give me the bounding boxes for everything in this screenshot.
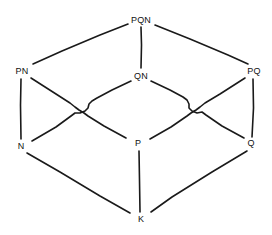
edge-pq-q bbox=[252, 79, 254, 137]
edge-pn-p bbox=[31, 78, 126, 138]
edge-q-k bbox=[151, 151, 247, 212]
node-label-q: Q bbox=[247, 138, 254, 148]
lattice-edges-canvas bbox=[0, 0, 272, 235]
lattice-diagram: PQN PN QN PQ N P Q K bbox=[0, 0, 272, 235]
edge-pqn-qn bbox=[141, 27, 142, 68]
node-label-n: N bbox=[18, 141, 25, 151]
edge-pqn-pn bbox=[33, 24, 128, 64]
edge-p-k bbox=[139, 151, 140, 212]
node-label-k: K bbox=[138, 214, 144, 224]
node-label-pq: PQ bbox=[247, 66, 260, 76]
node-label-pqn: PQN bbox=[131, 15, 151, 25]
edge-pqn-pq bbox=[155, 25, 248, 64]
node-label-pn: PN bbox=[16, 66, 29, 76]
edge-pn-n bbox=[21, 79, 22, 139]
edge-n-k bbox=[27, 153, 130, 213]
node-label-qn: QN bbox=[134, 71, 148, 81]
node-label-p: P bbox=[135, 138, 141, 148]
